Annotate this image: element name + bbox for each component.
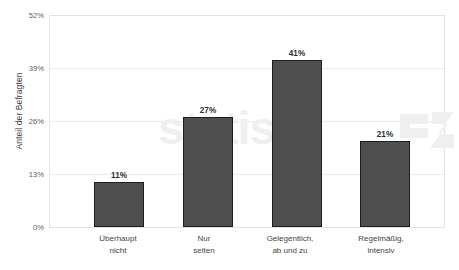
x-axis-category-label: Gelegentlich, ab und zu xyxy=(240,233,340,256)
gridline-26 xyxy=(50,121,444,122)
bar-gelegentlich-ab-und-zu xyxy=(272,60,322,227)
bar-value-label: 11% xyxy=(94,171,144,180)
x-axis-category-label: Regelmäßig, intensiv xyxy=(331,233,431,256)
y-tick-label: 0% xyxy=(0,224,44,232)
x-axis-category-label: Überhaupt nicht xyxy=(68,233,168,256)
y-tick-label: 13% xyxy=(0,171,44,179)
bar-value-label: 41% xyxy=(272,49,322,58)
plot-area: statista 11% 27% 41% 21% xyxy=(49,15,445,228)
bar-value-label: 27% xyxy=(183,106,233,115)
y-tick-label: 39% xyxy=(0,65,44,73)
x-axis-category-label: Nur selten xyxy=(154,233,254,256)
y-tick-label: 26% xyxy=(0,118,44,126)
bar-value-label: 21% xyxy=(360,130,410,139)
bar-chart: Anteil der Befragten 52% 39% 26% 13% 0% … xyxy=(0,0,459,270)
bar-nur-selten xyxy=(183,117,233,227)
gridline-39 xyxy=(50,68,444,69)
bar-regelmaessig-intensiv xyxy=(360,141,410,227)
bar-ueberhaupt-nicht xyxy=(94,182,144,227)
y-tick-label: 52% xyxy=(0,12,44,20)
